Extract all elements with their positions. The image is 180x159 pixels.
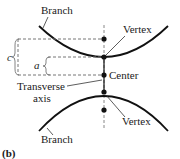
lower-focus-point: [101, 107, 106, 112]
center-point: [101, 72, 106, 77]
upper-vertex-point: [101, 54, 106, 59]
upper-focus-point: [101, 36, 106, 41]
lower-vertex-point: [101, 89, 106, 94]
center-label: Center: [109, 69, 139, 81]
a-brace: [43, 57, 50, 75]
branch-bottom-label: Branch: [41, 133, 73, 145]
branch-top-label: Branch: [41, 4, 73, 16]
transverse-leader: [67, 80, 102, 86]
hyperbola-diagram: Branch Vertex c a Center Transverse axis…: [0, 0, 180, 159]
a-label: a: [34, 59, 40, 71]
vertex-bottom-label: Vertex: [122, 115, 151, 127]
vertex-top-label: Vertex: [123, 23, 152, 35]
transverse-axis-label-line2: axis: [33, 92, 51, 104]
c-label: c: [7, 51, 12, 63]
panel-label: (b): [2, 147, 16, 159]
transverse-axis-label-line1: Transverse: [17, 80, 65, 92]
branch-top-leader: [43, 17, 48, 28]
vertex-top-leader: [106, 36, 125, 55]
